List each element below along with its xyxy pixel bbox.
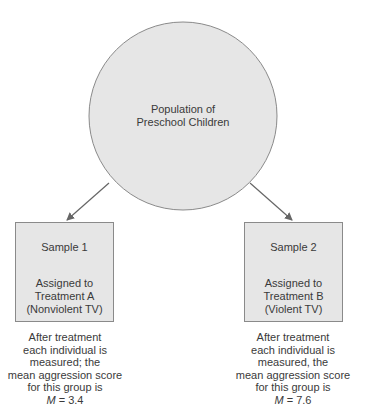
sample-2-title: Sample 2 xyxy=(245,241,342,254)
arrow-to-sample-1 xyxy=(67,183,109,220)
sample-1-assignment-line-1: Assigned to xyxy=(16,277,113,290)
population-label-line-2: Preschool Children xyxy=(123,116,243,129)
sample-1-caption-line-3: measured; the xyxy=(0,356,130,369)
sample-2-mean-symbol: M xyxy=(274,394,283,406)
sample-2-assignment-line-2: Treatment B xyxy=(245,290,342,303)
sample-2-caption-line-1: After treatment xyxy=(228,331,358,344)
sample-1-caption-line-2: each individual is xyxy=(0,344,130,357)
population-label-line-1: Population of xyxy=(123,103,243,116)
sample-2-assignment-line-3: (Violent TV) xyxy=(245,303,342,316)
sample-2-box: Sample 2 Assigned to Treatment B (Violen… xyxy=(244,222,343,322)
sample-1-mean: M = 3.4 xyxy=(0,394,130,407)
sample-1-caption-line-4: mean aggression score xyxy=(0,369,130,382)
sample-1-assignment-line-2: Treatment A xyxy=(16,290,113,303)
sample-1-assignment-line-3: (Nonviolent TV) xyxy=(16,303,113,316)
sample-2-mean: M = 7.6 xyxy=(228,394,358,407)
sample-1-caption: After treatment each individual is measu… xyxy=(0,331,130,406)
sample-2-caption-line-2: each individual is xyxy=(228,344,358,357)
sample-1-assignment: Assigned to Treatment A (Nonviolent TV) xyxy=(16,277,113,316)
sample-2-mean-value: = 7.6 xyxy=(287,394,312,406)
sample-1-mean-symbol: M xyxy=(46,394,55,406)
sample-1-mean-value: = 3.4 xyxy=(59,394,84,406)
sample-1-title: Sample 1 xyxy=(16,241,113,254)
sample-2-assignment-line-1: Assigned to xyxy=(245,277,342,290)
sample-1-caption-line-1: After treatment xyxy=(0,331,130,344)
sample-2-caption-line-4: mean aggression score xyxy=(228,369,358,382)
sample-2-caption-line-3: measured, the xyxy=(228,356,358,369)
sample-1-caption-line-5: for this group is xyxy=(0,381,130,394)
arrow-to-sample-2 xyxy=(250,183,292,220)
sample-2-assignment: Assigned to Treatment B (Violent TV) xyxy=(245,277,342,316)
population-label: Population of Preschool Children xyxy=(123,103,243,129)
sample-2-caption: After treatment each individual is measu… xyxy=(228,331,358,406)
sample-1-box: Sample 1 Assigned to Treatment A (Nonvio… xyxy=(15,222,114,322)
sample-2-caption-line-5: for this group is xyxy=(228,381,358,394)
